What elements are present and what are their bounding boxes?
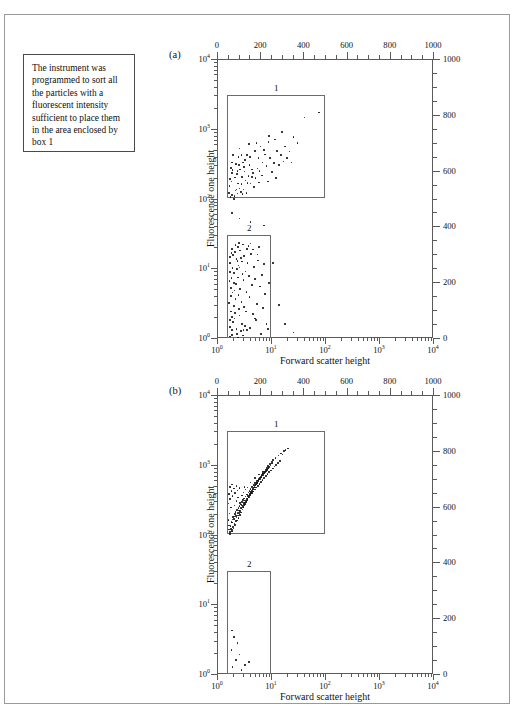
panel-a-data-point — [268, 282, 270, 284]
panel-a-right-minor-tick — [433, 87, 437, 88]
panel-b-right-tick-label: 800 — [443, 446, 456, 456]
panel-b-top-minor-tick — [422, 391, 423, 395]
panel-b-right-minor-tick — [433, 521, 437, 522]
panel-a-x-minor-tick — [425, 338, 426, 341]
panel-a-x-minor-tick — [371, 338, 372, 341]
panel-b-y-minor-tick — [214, 625, 217, 626]
panel-b-y-minor-tick — [214, 423, 217, 424]
panel-b-data-point — [248, 661, 250, 663]
panel-a-right-minor-tick — [433, 296, 437, 297]
panel-a-y-minor-tick — [214, 219, 217, 220]
panel-a-x-minor-tick — [405, 338, 406, 341]
panel-a-data-point — [244, 325, 246, 327]
panel-a-x-minor-tick — [313, 338, 314, 341]
panel-a-top-minor-tick — [249, 55, 250, 59]
panel-b-right-minor-tick — [433, 660, 437, 661]
panel-a-x-minor-tick — [269, 338, 270, 341]
panel-a-data-point — [263, 149, 265, 151]
panel-b-x-minor-tick — [323, 674, 324, 677]
panel-b-right-minor-tick — [433, 423, 437, 424]
panel-a-right-minor-tick — [433, 157, 437, 158]
panel-b-x-minor-tick — [317, 674, 318, 677]
panel-a-data-point — [236, 328, 238, 330]
panel-b-y-minor-tick — [214, 583, 217, 584]
panel-b-y-major-tick — [211, 604, 217, 605]
panel-b-data-point — [246, 499, 248, 501]
panel-a-data-point — [239, 250, 241, 252]
panel-b-data-point — [259, 478, 261, 480]
panel-a-data-point — [241, 176, 243, 178]
panel-a-x-minor-tick — [395, 338, 396, 341]
panel-b-y-minor-tick — [214, 514, 217, 515]
panel-b-data-point — [239, 514, 241, 516]
panel-a-data-point — [228, 192, 230, 194]
panel-b-y-minor-tick — [214, 476, 217, 477]
panel-b-data-point — [239, 502, 241, 504]
panel-b-y-minor-tick — [214, 545, 217, 546]
panel-b-gate-2-label: 2 — [247, 559, 252, 569]
panel-b-x-minor-tick — [341, 674, 342, 677]
panel-b-right-minor-tick — [433, 632, 437, 633]
panel-a-right-tick-label: 800 — [443, 110, 456, 120]
panel-a-data-point — [262, 307, 264, 309]
panel-b-top-major-tick — [303, 388, 304, 395]
panel-b-data-point — [231, 649, 233, 651]
panel-b-y-minor-tick — [214, 501, 217, 502]
panel-a-top-tick-label: 1000 — [424, 40, 441, 50]
panel-a-data-point — [230, 167, 232, 169]
panel-b-right-minor-tick — [433, 576, 437, 577]
panel-b-right-minor-tick — [433, 493, 437, 494]
panel-b-x-minor-tick — [367, 674, 368, 677]
panel-b-x-minor-tick — [269, 674, 270, 677]
panel-b-x-minor-tick — [259, 674, 260, 677]
panel-a-x-tick-label: 101 — [265, 345, 277, 355]
panel-a-x-minor-tick — [309, 338, 310, 341]
panel-a-data-point — [244, 159, 246, 161]
panel-b-right-major-tick — [433, 618, 440, 619]
panel-a-data-point — [229, 178, 231, 180]
panel-b-right-tick-label: 200 — [443, 613, 456, 623]
panel-a-right-minor-tick — [433, 268, 437, 269]
panel-a-data-point — [259, 286, 261, 288]
panel-b-data-point — [249, 493, 251, 495]
panel-b-y-minor-tick — [214, 550, 217, 551]
panel-b-right-tick-label: 400 — [443, 557, 456, 567]
panel-a-top-minor-tick — [228, 55, 229, 59]
panel-b-x-minor-tick — [417, 674, 418, 677]
panel-a-data-point — [231, 172, 233, 174]
panel-a-data-point — [246, 154, 248, 156]
panel-a-data-point — [237, 183, 239, 185]
panel-a-x-minor-tick — [377, 338, 378, 341]
panel-a-data-point — [231, 329, 233, 331]
panel-a-data-point — [264, 154, 266, 156]
panel-a-x-minor-tick — [431, 338, 432, 341]
panel-a-x-minor-tick — [297, 338, 298, 341]
panel-b-x-tick-label: 100 — [211, 681, 223, 691]
panel-a-data-point — [229, 271, 231, 273]
panel-b-x-minor-tick — [243, 674, 244, 677]
panel-a-x-minor-tick — [367, 338, 368, 341]
panel-a-x-tick-label: 102 — [319, 345, 331, 355]
panel-a-data-point — [229, 256, 231, 258]
panel-a-data-point — [255, 319, 257, 321]
panel-b-data-point — [233, 636, 235, 638]
panel-a-data-point — [238, 242, 240, 244]
panel-a-data-point — [264, 293, 266, 295]
panel-a-data-point — [246, 291, 248, 293]
panel-b-gate-1[interactable] — [227, 431, 325, 534]
panel-a-data-point — [271, 171, 273, 173]
panel-a-data-point — [249, 156, 251, 158]
panel-a-x-minor-tick — [263, 338, 264, 341]
panel-a-data-point — [257, 260, 259, 262]
panel-b-top-tick-label: 0 — [215, 376, 219, 386]
panel-b-y-minor-tick — [214, 416, 217, 417]
panel-b-gate-2[interactable] — [227, 571, 271, 674]
panel-b-right-tick-label: 0 — [443, 669, 447, 679]
panel-a-x-major-tick — [271, 338, 272, 344]
panel-a-right-minor-tick — [433, 212, 437, 213]
panel-a-data-point — [233, 198, 235, 200]
panel-b-x-major-tick — [379, 674, 380, 680]
panel-a-right-tick-label: 1000 — [443, 54, 460, 64]
panel-a-y-tick-label: 104 — [189, 54, 210, 64]
panel-a-data-point — [248, 175, 250, 177]
